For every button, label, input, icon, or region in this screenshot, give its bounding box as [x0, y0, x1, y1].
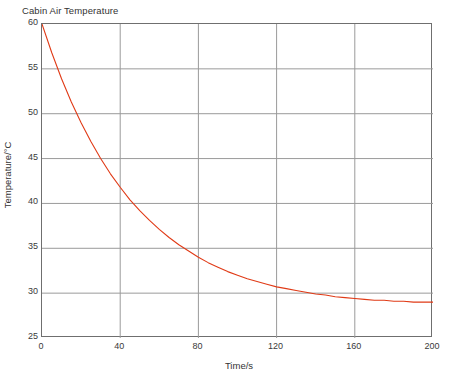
chart-figure: Cabin Air Temperature 2530354045505560 T… [0, 0, 460, 381]
plot-canvas [42, 24, 433, 338]
x-tick-label-160: 160 [346, 342, 361, 351]
y-axis-title: Temperature/°C [2, 142, 13, 209]
y-tick-label-30: 30 [2, 287, 38, 296]
plot-area [41, 23, 432, 337]
x-tick-label-120: 120 [268, 342, 283, 351]
y-tick-label-60: 60 [2, 18, 38, 27]
x-tick-label-80: 80 [192, 342, 202, 351]
x-tick-label-40: 40 [114, 342, 124, 351]
horizontal-gridlines [42, 69, 433, 293]
y-tick-label-50: 50 [2, 108, 38, 117]
x-axis-tick-labels: 04080120160200 [0, 342, 460, 356]
vertical-gridlines [120, 24, 355, 338]
x-tick-label-0: 0 [38, 342, 43, 351]
y-tick-label-35: 35 [2, 242, 38, 251]
temperature-decay-curve [42, 24, 433, 302]
x-tick-label-200: 200 [424, 342, 439, 351]
y-tick-label-25: 25 [2, 332, 38, 341]
y-axis-title-container: Temperature/°C [0, 120, 14, 230]
x-axis-title: Time/s [0, 360, 460, 371]
y-tick-label-55: 55 [2, 63, 38, 72]
